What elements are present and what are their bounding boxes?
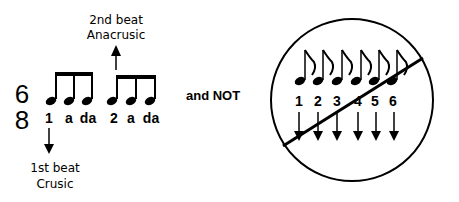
beat2-label-line1: 2nd beat <box>89 13 143 27</box>
strike-through-slash <box>283 58 423 146</box>
beat1-label-line2: Crusic <box>36 177 73 191</box>
time-signature-bottom: 8 <box>15 105 29 135</box>
beat2-label-line2: Anacrusic <box>87 28 146 42</box>
count-label: da <box>143 110 160 126</box>
count-label: 2 <box>110 110 118 126</box>
count-label: 1 <box>45 110 53 126</box>
count-label: a <box>127 110 135 126</box>
count-label: 1 <box>295 93 303 109</box>
count-label: 5 <box>371 93 379 109</box>
arrow-down-icon <box>389 112 399 141</box>
beamed-eighths-group-2 <box>105 75 156 107</box>
rhythm-diagram: 6 8 1 a da 2 a da 2nd beat Anacrusic 1st… <box>0 0 459 202</box>
arrow-down-icon <box>332 112 342 141</box>
beamed-eighths-group-1 <box>44 72 93 107</box>
count-label: 2 <box>314 93 322 109</box>
beat-arrows <box>294 112 399 141</box>
count-label: a <box>65 110 73 126</box>
connector-text: and NOT <box>186 88 240 103</box>
arrow-up-icon <box>111 45 121 70</box>
arrow-down-icon <box>44 128 54 154</box>
flagged-eighths <box>293 50 407 87</box>
count-label: 3 <box>333 93 341 109</box>
count-label: 6 <box>389 93 397 109</box>
count-label: da <box>80 110 97 126</box>
arrow-down-icon <box>371 112 381 141</box>
beat1-label-line1: 1st beat <box>30 161 80 175</box>
arrow-down-icon <box>353 112 363 141</box>
